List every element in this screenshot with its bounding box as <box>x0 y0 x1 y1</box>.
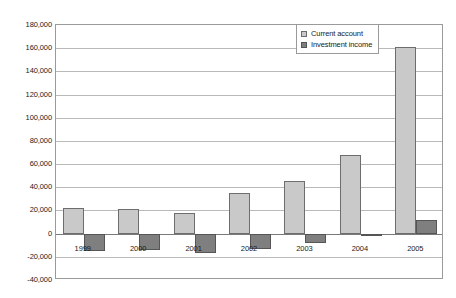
gridline <box>56 257 442 258</box>
y-axis-tick-label: 20,000 <box>2 205 52 214</box>
bar-2001-current-account <box>174 213 195 234</box>
bar-2005-current-account <box>395 47 416 234</box>
y-axis-tick-label: 40,000 <box>2 182 52 191</box>
x-axis-tick-label: 1999 <box>75 244 91 253</box>
legend-item-investment-income: Investment income <box>301 39 372 50</box>
bar-2000-current-account <box>118 209 139 233</box>
x-axis-tick-label: 2001 <box>185 244 201 253</box>
y-axis-tick-label: 0 <box>2 228 52 237</box>
chart-page: 180,000160,000140,000120,000100,00080,00… <box>0 0 456 298</box>
y-axis-tick-label: -20,000 <box>2 251 52 260</box>
gridline <box>56 71 442 72</box>
gridline <box>56 141 442 142</box>
y-axis: 180,000160,000140,000120,000100,00080,00… <box>0 0 52 298</box>
legend-swatch-icon <box>301 42 307 48</box>
x-axis-tick-label: 2004 <box>352 244 368 253</box>
gridline <box>56 164 442 165</box>
gridline <box>56 187 442 188</box>
bar-2003-current-account <box>284 181 305 233</box>
bar-2004-current-account <box>340 155 361 234</box>
legend-swatch-icon <box>301 31 307 37</box>
y-axis-tick-label: 60,000 <box>2 159 52 168</box>
legend-item-current-account: Current account <box>301 28 372 39</box>
gridline <box>56 95 442 96</box>
legend-label: Investment income <box>311 40 372 49</box>
gridline <box>56 48 442 49</box>
bar-2002-current-account <box>229 193 250 234</box>
chart-legend: Current account Investment income <box>296 24 379 54</box>
y-axis-tick-label: 100,000 <box>2 112 52 121</box>
y-axis-tick-label: -40,000 <box>2 275 52 284</box>
bar-2004-investment-income <box>361 234 382 236</box>
x-axis-tick-label: 2005 <box>407 244 423 253</box>
x-axis-tick-label: 2002 <box>241 244 257 253</box>
zero-axis-line <box>56 234 442 235</box>
y-axis-tick-label: 120,000 <box>2 89 52 98</box>
legend-label: Current account <box>311 29 363 38</box>
plot-area <box>55 24 443 279</box>
bar-1999-current-account <box>63 208 84 234</box>
y-axis-tick-label: 140,000 <box>2 66 52 75</box>
bar-2003-investment-income <box>305 234 326 243</box>
y-axis-tick-label: 160,000 <box>2 43 52 52</box>
y-axis-tick-label: 80,000 <box>2 135 52 144</box>
x-axis-tick-label: 2003 <box>296 244 312 253</box>
bar-2005-investment-income <box>416 220 437 234</box>
gridline <box>56 118 442 119</box>
y-axis-tick-label: 180,000 <box>2 20 52 29</box>
x-axis-tick-label: 2000 <box>130 244 146 253</box>
